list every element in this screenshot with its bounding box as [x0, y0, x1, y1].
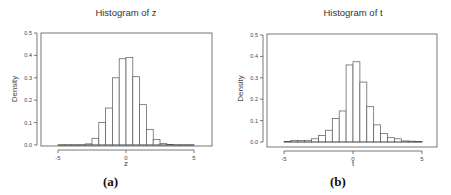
- y-tick-label: 0.4: [24, 52, 32, 58]
- y-tick-label: 0.5: [250, 32, 258, 38]
- histogram-bar: [99, 123, 106, 145]
- y-tick-label: 0.1: [250, 118, 258, 124]
- histogram-z-chart: Histogram of z0.00.10.20.30.40.5Density-…: [0, 0, 225, 195]
- y-tick-label: 0.4: [250, 53, 258, 59]
- chart-title: Histogram of z: [95, 7, 156, 18]
- y-tick-label: 0.0: [24, 142, 32, 148]
- histogram-bar: [394, 139, 401, 142]
- histogram-bar: [112, 78, 119, 145]
- histogram-bar: [360, 82, 367, 142]
- histogram-bar: [346, 65, 353, 142]
- histogram-bar: [153, 139, 160, 145]
- histogram-bar: [119, 59, 126, 145]
- histogram-t-panel: Histogram of t0.00.10.20.30.40.5Density-…: [225, 0, 451, 195]
- histogram-bar: [312, 139, 319, 142]
- chart-title: Histogram of t: [323, 7, 382, 18]
- y-axis-label: Density: [10, 76, 19, 103]
- histogram-bar: [374, 125, 381, 142]
- histogram-bar: [319, 136, 326, 142]
- y-axis-label: Density: [236, 75, 245, 102]
- y-tick-label: 0.0: [250, 139, 258, 145]
- y-tick-label: 0.5: [24, 30, 32, 36]
- histogram-bar: [325, 130, 332, 142]
- histogram-bar: [140, 105, 147, 145]
- x-tick-label: 5: [420, 156, 424, 162]
- histogram-bar: [388, 138, 395, 142]
- histogram-bar: [126, 58, 133, 145]
- histogram-t-chart: Histogram of t0.00.10.20.30.40.5Density-…: [225, 0, 451, 195]
- histogram-z-panel: Histogram of z0.00.10.20.30.40.5Density-…: [0, 0, 225, 195]
- histogram-bar: [92, 138, 99, 145]
- x-tick-label: -5: [281, 156, 287, 162]
- y-tick-label: 0.2: [250, 96, 258, 102]
- histogram-bar: [367, 107, 374, 142]
- x-tick-label: 5: [192, 155, 196, 161]
- y-tick-label: 0.2: [24, 97, 32, 103]
- histogram-bar: [332, 118, 339, 142]
- caption-b: (b): [330, 174, 346, 190]
- x-tick-label: -5: [55, 155, 61, 161]
- histogram-bar: [339, 111, 346, 142]
- histogram-bar: [146, 129, 153, 145]
- x-axis-label: z: [124, 159, 128, 168]
- caption-a: (a): [103, 174, 118, 190]
- histogram-bar: [381, 133, 388, 142]
- histogram-bar: [133, 77, 140, 145]
- y-tick-label: 0.3: [24, 75, 32, 81]
- y-tick-label: 0.3: [250, 75, 258, 81]
- y-tick-label: 0.1: [24, 120, 32, 126]
- histogram-bar: [353, 62, 360, 142]
- histogram-bar: [106, 108, 113, 145]
